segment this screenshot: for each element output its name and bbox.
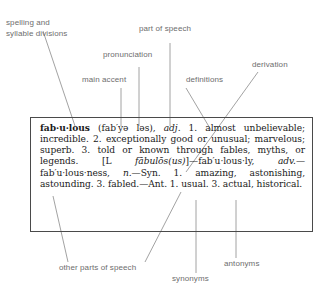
entry-derived-pos-1: adv.	[278, 156, 296, 166]
leader-spelling	[43, 31, 75, 126]
entry-etymology-open: [L	[102, 156, 135, 166]
callout-derivation: derivation	[252, 60, 288, 71]
entry-pronunciation: (fab′yə ləs),	[98, 123, 156, 133]
entry-derived-pos-2: n.	[123, 168, 132, 178]
dictionary-entry-text: fab·u·lous (fab′yə ləs), adj. 1. almost …	[40, 122, 305, 190]
entry-part-of-speech: adj.	[164, 123, 181, 133]
entry-space-1	[90, 123, 98, 133]
callout-other-parts-of-speech: other parts of speech	[59, 263, 136, 274]
entry-headword: fab·u·lous	[40, 122, 90, 133]
callout-antonyms: antonyms	[224, 259, 259, 270]
callout-definitions: definitions	[186, 75, 223, 86]
callout-part-of-speech: part of speech	[139, 24, 191, 35]
callout-synonyms: synonyms	[172, 274, 209, 285]
callout-main-accent: main accent	[82, 75, 126, 86]
entry-etymology-source: fābulōs(us)	[135, 156, 186, 166]
entry-space-2	[156, 123, 164, 133]
callout-spelling-and-syllable-divisions: spelling and syllable divisions	[6, 18, 67, 39]
entry-derived-form-1: —fab′u·lous·ly,	[189, 156, 278, 166]
callout-pronunciation: pronunciation	[103, 50, 152, 61]
dictionary-entry-diagram: spelling and syllable divisions part of …	[0, 0, 332, 304]
entry-antonyms: —Ant. 1. usual. 3. actual, historical.	[139, 179, 302, 189]
